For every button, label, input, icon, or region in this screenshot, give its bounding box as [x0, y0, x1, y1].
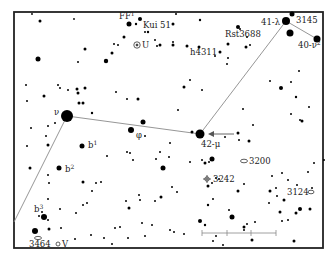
- star: [183, 233, 185, 235]
- star: [245, 46, 248, 49]
- star: [125, 200, 127, 202]
- star: [135, 23, 137, 25]
- label-u: U: [142, 40, 149, 50]
- star: [222, 244, 224, 246]
- star: [173, 231, 175, 233]
- star: [128, 127, 134, 133]
- star: [76, 88, 79, 91]
- star: [41, 211, 43, 213]
- star: [32, 228, 38, 234]
- stars-layer: [25, 12, 325, 247]
- star: [144, 31, 146, 33]
- star: [287, 30, 294, 37]
- star: [204, 162, 207, 165]
- star: [243, 183, 245, 185]
- star: [172, 23, 175, 26]
- asterism-lines: [14, 21, 317, 222]
- star: [271, 175, 273, 177]
- star: [290, 81, 292, 83]
- star: [287, 219, 289, 221]
- label-3145: 3145: [296, 15, 318, 25]
- star: [139, 199, 141, 201]
- star-chart: FF1 Kui 51 U Rst3688 h4311 41-λ 3145 40-…: [0, 0, 333, 260]
- star: [212, 240, 214, 242]
- star: [82, 102, 85, 105]
- star: [26, 100, 28, 102]
- star: [159, 151, 161, 153]
- star: [144, 235, 146, 237]
- label-41-lambda: 41-λ: [261, 17, 281, 27]
- star: [230, 215, 235, 220]
- label-b2: b2: [65, 163, 74, 174]
- variable-star-v-icon: [56, 242, 60, 246]
- star: [111, 243, 113, 245]
- variable-star-u-icon: [134, 42, 140, 48]
- star: [45, 135, 47, 137]
- star: [281, 220, 283, 222]
- star: [95, 182, 97, 184]
- star: [172, 41, 174, 43]
- star: [237, 132, 240, 135]
- star: [199, 19, 201, 21]
- star: [290, 113, 292, 115]
- star: [126, 98, 128, 100]
- star: [26, 145, 28, 147]
- star: [313, 162, 315, 164]
- pointer-arrow: [208, 131, 234, 137]
- star: [169, 229, 171, 231]
- star: [226, 63, 228, 65]
- star: [177, 109, 179, 111]
- star: [84, 48, 87, 51]
- star: [57, 166, 62, 171]
- star: [77, 61, 79, 63]
- star: [48, 182, 50, 184]
- star: [91, 190, 93, 192]
- label-kui51: Kui 51: [143, 20, 171, 30]
- star: [78, 102, 81, 105]
- star: [84, 87, 87, 90]
- dso-symbols: [35, 42, 315, 246]
- star: [48, 228, 51, 231]
- star: [276, 195, 278, 197]
- star: [47, 125, 49, 127]
- star: [29, 167, 32, 170]
- label-3200: 3200: [249, 156, 271, 166]
- star: [82, 204, 84, 206]
- star: [154, 200, 156, 202]
- star: [54, 122, 56, 124]
- star: [161, 166, 166, 171]
- star: [60, 227, 62, 229]
- star: [309, 208, 312, 211]
- star: [144, 135, 146, 137]
- star: [159, 44, 162, 47]
- star: [123, 36, 126, 39]
- label-40-nu2: 40-ν2: [298, 39, 321, 50]
- star: [74, 238, 76, 240]
- star: [298, 70, 300, 72]
- star: [47, 219, 49, 221]
- star: [128, 207, 131, 210]
- star: [296, 184, 298, 186]
- star: [295, 96, 297, 98]
- star: [57, 84, 59, 86]
- star: [196, 130, 205, 139]
- star: [186, 45, 189, 48]
- star: [30, 127, 32, 129]
- star: [47, 198, 49, 200]
- star: [127, 22, 132, 27]
- star: [127, 237, 129, 239]
- star: [38, 215, 40, 217]
- star: [168, 156, 170, 158]
- star: [212, 198, 214, 200]
- star: [207, 185, 210, 188]
- star: [59, 87, 61, 89]
- star: [160, 196, 163, 199]
- galaxy-3200-icon: [241, 159, 248, 163]
- star: [114, 227, 116, 229]
- label-v: V: [61, 239, 69, 249]
- star: [227, 43, 230, 46]
- star: [243, 226, 246, 229]
- star: [249, 44, 251, 46]
- star: [242, 108, 244, 110]
- star: [154, 39, 156, 41]
